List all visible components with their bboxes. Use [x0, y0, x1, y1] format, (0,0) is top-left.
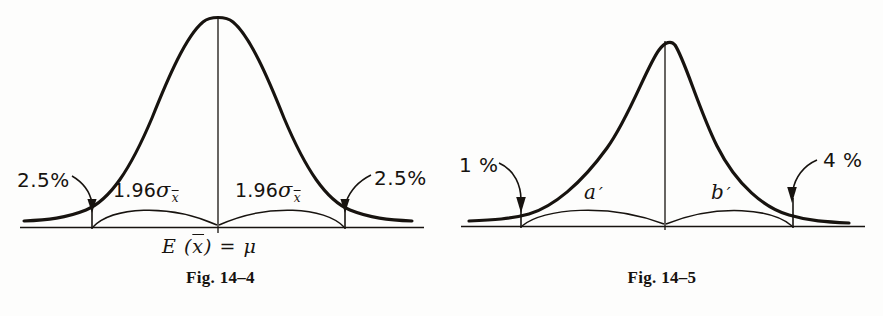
- right-interval-arc: [666, 211, 792, 226]
- center-mean-label: E (x) = μ: [162, 237, 257, 256]
- mean-suffix: ) = μ: [204, 235, 257, 257]
- right-interval-letter: b: [711, 180, 724, 204]
- left-interval-arc: [522, 210, 664, 226]
- left-interval-prime: ′: [596, 183, 603, 203]
- right-interval-prime: ′: [724, 183, 731, 203]
- left-interval-arc: [93, 210, 217, 227]
- figure-fig-14-4: 2.5% 2.5% 1.96σx 1.96σx E (x) = μ Fig. 1…: [0, 0, 441, 316]
- left-tail-arrow-shaft: [499, 163, 521, 200]
- left-tail-percent-label: 2.5%: [17, 170, 70, 190]
- left-interval-label: 1.96σx: [113, 180, 178, 201]
- right-tail-percent-label: 4 %: [823, 150, 863, 170]
- right-interval-label: 1.96σx: [235, 180, 300, 201]
- figure-sheet: 2.5% 2.5% 1.96σx 1.96σx E (x) = μ Fig. 1…: [0, 0, 883, 316]
- right-tail-percent-label: 2.5%: [374, 168, 427, 188]
- right-interval-subscript: x: [294, 191, 301, 205]
- left-tail-percent-label: 1 %: [459, 155, 499, 175]
- right-interval-label: b′: [711, 182, 731, 202]
- right-interval-value: 1.96: [235, 179, 278, 201]
- left-interval-sigma: σ: [156, 178, 171, 202]
- mean-bar-variable: x: [192, 235, 204, 257]
- right-tail-arrow-shaft: [793, 160, 817, 190]
- figure-caption-left: Fig. 14–4: [0, 268, 441, 288]
- mean-prefix: E (: [162, 235, 192, 257]
- left-interval-label: a′: [584, 182, 603, 202]
- left-interval-value: 1.96: [113, 179, 156, 201]
- left-tail-arrow-head: [516, 197, 526, 213]
- left-tail-arrow-shaft: [72, 176, 92, 203]
- right-tail-arrow-shaft: [346, 175, 371, 202]
- figure-fig-14-5: 1 % 4 % a′ b′ Fig. 14–5: [441, 0, 883, 316]
- right-interval-arc: [219, 210, 344, 227]
- right-interval-sigma: σ: [278, 178, 293, 202]
- figure-caption-right: Fig. 14–5: [441, 268, 883, 288]
- right-tail-arrow-head: [787, 187, 797, 203]
- left-interval-letter: a: [584, 180, 596, 204]
- left-interval-subscript: x: [172, 191, 179, 205]
